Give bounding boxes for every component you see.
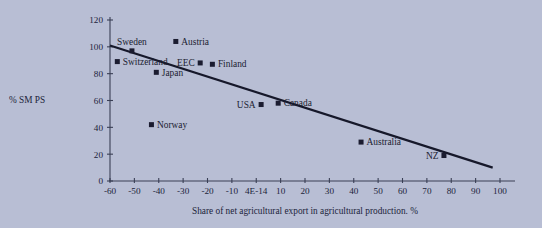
data-point-marker [173,39,178,44]
data-point: USA [237,100,264,110]
x-tick-label: 30 [325,186,335,196]
data-point-marker [154,70,159,75]
data-point-label: Sweden [117,37,147,47]
y-tick-label: 100 [89,42,103,52]
x-tick-label: 80 [447,186,457,196]
x-tick-label: 60 [398,186,408,196]
x-tick-label: -40 [153,186,166,196]
x-tick-label: 100 [493,186,507,196]
data-point-label: Norway [157,120,188,130]
data-point: Australia [359,137,402,147]
data-point-label: Japan [162,68,184,78]
data-point: Finland [210,59,247,69]
x-tick-label: 50 [374,186,384,196]
data-point: Japan [154,68,184,78]
y-tick-label: 120 [89,15,103,25]
y-tick-label: 80 [94,69,104,79]
data-points: SwitzerlandSwedenNorwayJapanAustriaEECFi… [115,37,447,161]
data-point-label: Australia [367,137,402,147]
data-point-marker [149,122,154,127]
chart-plot-area: -60-50-40-30-20-104E-1410203040506070809… [0,0,542,228]
axis-titles: % SM PS Share of net agricultural export… [9,95,418,216]
x-tick-label: 90 [471,186,481,196]
data-point-label: EEC [177,58,195,68]
data-point-marker [359,140,364,145]
y-axis-title: % SM PS [9,95,45,105]
x-tick-label: 70 [422,186,432,196]
data-point: EEC [177,58,203,68]
y-tick-label: 0 [98,176,103,186]
x-tick-label: -50 [128,186,141,196]
data-point-label: Finland [218,59,247,69]
x-axis-title: Share of net agricultural export in agri… [192,206,418,216]
data-point: Norway [149,120,188,130]
x-tick-label: -10 [226,186,239,196]
x-tick-label: 20 [300,186,310,196]
data-point-marker [259,102,264,107]
x-tick-label: -60 [104,186,117,196]
data-point-marker [115,59,120,64]
data-point: Switzerland [115,57,168,67]
data-point-marker [198,60,203,65]
scatter-chart: -60-50-40-30-20-104E-1410203040506070809… [0,0,542,228]
data-point: Sweden [117,37,147,54]
y-tick-label: 40 [94,123,104,133]
x-tick-label: 10 [276,186,286,196]
y-tick-label: 60 [94,96,104,106]
data-point-marker [210,62,215,67]
x-tick-label: -20 [201,186,214,196]
data-point: Austria [173,37,209,47]
y-tick-label: 20 [94,150,104,160]
x-tick-label: -30 [177,186,190,196]
data-point-label: Austria [181,37,209,47]
x-tick-label: 40 [349,186,359,196]
data-point-label: Switzerland [123,57,168,67]
data-point-label: USA [237,100,256,110]
data-point-marker [129,48,134,53]
x-tick-label: 4E-14 [245,186,268,196]
data-point-marker [441,153,446,158]
data-point-label: NZ [426,151,439,161]
data-point-label: Canada [284,98,313,108]
data-point-marker [276,101,281,106]
